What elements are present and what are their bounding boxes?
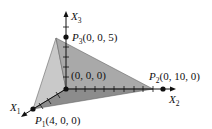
x3-label: X3 bbox=[70, 10, 82, 25]
x2-label: X2 bbox=[168, 93, 180, 108]
p3-point bbox=[63, 34, 68, 39]
p1-point bbox=[30, 106, 35, 111]
x2-arrow-icon bbox=[170, 87, 176, 92]
origin-point bbox=[63, 86, 68, 91]
right-face bbox=[56, 38, 153, 89]
p2-label: P2(0, 10, 0) bbox=[148, 70, 200, 85]
origin-label: (0, 0, 0) bbox=[71, 69, 106, 82]
p3-label: P3(0, 0, 5) bbox=[71, 31, 118, 46]
x1-arrow-icon bbox=[21, 112, 28, 118]
p1-label: P1(4, 0, 0) bbox=[34, 114, 81, 129]
tetrahedron-diagram: X3 P3(0, 0, 5) (0, 0, 0) P2(0, 10, 0) X2… bbox=[0, 0, 212, 129]
p2-point bbox=[160, 86, 165, 91]
x1-label: X1 bbox=[9, 101, 21, 116]
x3-arrow-icon bbox=[64, 11, 69, 17]
